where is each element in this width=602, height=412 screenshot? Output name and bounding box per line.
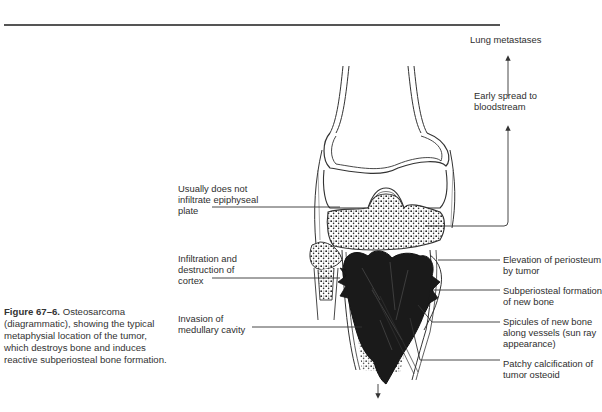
label-periosteum-elevation: Elevation of periosteum by tumor <box>503 254 601 276</box>
label-lung-metastases: Lung metastases <box>470 34 541 45</box>
label-medullary-invasion: Invasion of medullary cavity <box>178 313 245 335</box>
figure-caption: Figure 67–6. Osteosarcoma (diagrammatic)… <box>4 306 168 366</box>
label-subperiosteal-bone: Subperiosteal formation of new bone <box>503 285 602 307</box>
label-cortex-destruction: Infiltration and destruction of cortex <box>178 253 237 286</box>
label-bloodstream-spread: Early spread to bloodstream <box>474 90 537 112</box>
label-patchy-calcification: Patchy calcification of tumor osteoid <box>503 358 593 380</box>
figure-label: Figure 67–6. <box>4 306 60 317</box>
label-epiphyseal-plate: Usually does not infiltrate epiphyseal p… <box>178 183 258 216</box>
label-sun-ray-spicules: Spicules of new bone along vessels (sun … <box>503 316 596 349</box>
